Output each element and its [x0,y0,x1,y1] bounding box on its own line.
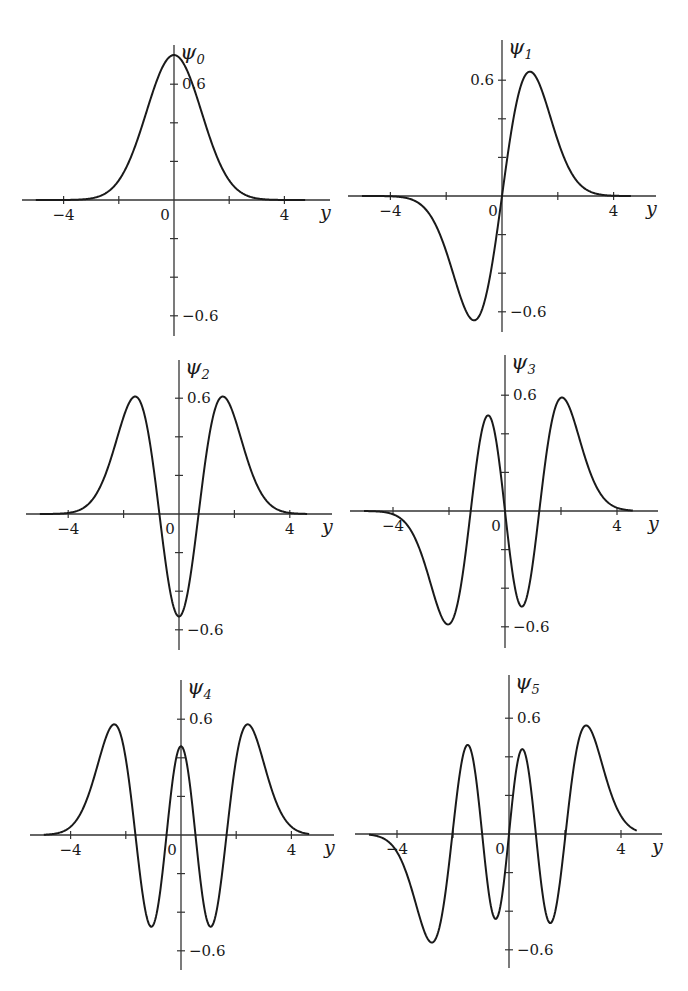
panel-psi-4: −4040.6−0.6yψ4 [30,675,335,970]
psi-symbol: ψ [508,35,525,59]
psi-subscript: 1 [524,47,532,62]
y-tick-label: 0.6 [189,710,213,728]
psi-symbol: ψ [511,350,528,374]
y-tick-label: −0.6 [189,942,225,960]
panel-psi-2: −4040.6−0.6yψ2 [26,355,333,650]
x-tick-label: 4 [285,520,295,538]
psi-subscript: 0 [196,52,204,67]
psi-subscript: 4 [202,687,211,702]
psi-subscript: 5 [531,682,539,697]
y-tick-label: 0.6 [470,71,494,89]
y-tick-label: 0.6 [517,709,541,727]
x-axis-label: y [651,835,663,857]
x-tick-label: −4 [57,520,79,538]
series-line-psi-0 [36,55,305,200]
y-axis-label: ψ4 [187,675,212,702]
x-tick-label: −4 [379,202,401,220]
psi-symbol: ψ [515,670,532,694]
y-tick-label: −0.6 [510,303,546,321]
x-tick-label: 4 [612,517,622,535]
y-tick-label: 0.6 [513,386,537,404]
series-line-psi-4 [44,724,309,926]
y-tick-label: −0.6 [182,307,218,325]
x-tick-label: −4 [53,206,75,224]
x-tick-label: 0 [167,841,177,859]
x-axis-label: y [323,836,335,858]
x-axis-label: y [321,515,333,537]
x-tick-label: 0 [160,206,170,224]
y-tick-label: 0.6 [187,389,211,407]
x-axis-label: y [319,201,331,223]
figure-eigenfunctions: −4040.6−0.6yψ0 −4040.6−0.6yψ1 −4040.6−0.… [0,0,688,991]
x-tick-label: 4 [287,841,297,859]
psi-symbol: ψ [187,675,204,699]
y-axis-label: ψ5 [515,670,540,697]
panel-psi-3: −4040.6−0.6yψ3 [350,350,659,648]
panel-psi-5: −4040.6−0.6yψ5 [355,670,663,968]
x-tick-label: 4 [280,206,290,224]
psi-subscript: 2 [200,367,209,382]
x-tick-label: 4 [616,840,626,858]
panel-psi-1: −4040.6−0.6yψ1 [348,35,657,332]
x-tick-label: 0 [495,840,505,858]
y-tick-label: −0.6 [513,618,549,636]
x-axis-label: y [645,197,657,219]
y-axis-label: ψ2 [185,355,210,382]
x-axis-label: y [647,512,659,534]
y-tick-label: −0.6 [187,621,223,639]
x-tick-label: 4 [609,202,619,220]
series-line-psi-2 [40,397,307,617]
x-tick-label: −4 [60,841,82,859]
psi-symbol: ψ [185,355,202,379]
y-axis-label: ψ1 [508,35,533,62]
psi-subscript: 3 [527,362,535,377]
x-tick-label: 0 [488,202,498,220]
panel-psi-0: −4040.6−0.6yψ0 [22,40,331,336]
y-tick-label: −0.6 [517,941,553,959]
y-axis-label: ψ3 [511,350,536,377]
x-tick-label: 0 [165,520,175,538]
x-tick-label: 0 [491,517,501,535]
